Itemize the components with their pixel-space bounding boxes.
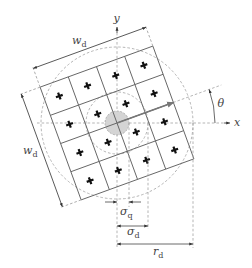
cross-marker [114, 166, 123, 175]
grid-line [71, 131, 184, 172]
cross-marker [55, 91, 64, 100]
top-width-label-sub: d [81, 40, 86, 49]
cross-marker [121, 99, 130, 108]
cross-marker [111, 71, 120, 80]
r-d-label: rd [153, 245, 163, 260]
top-width-extension-right [145, 24, 153, 46]
x-axis-label: x [234, 116, 241, 129]
top-width-label: wd [72, 34, 87, 49]
sigma-q-label-sub: q [128, 211, 133, 220]
x-axis-label-text: x [234, 116, 241, 129]
left-width-extension-top [18, 87, 40, 95]
left-width-label-sub: d [32, 150, 37, 159]
cross-marker [75, 148, 84, 157]
sigma-q-label: σq [120, 205, 133, 220]
cross-marker [85, 176, 94, 185]
r-d-label-sub: d [158, 251, 163, 260]
rotated-grid-diagram: y x θ wd wd σq σd rd [0, 0, 252, 268]
left-width-label: wd [23, 144, 38, 159]
cross-marker [160, 117, 169, 126]
top-width-extension-left [32, 66, 40, 88]
y-axis-label: y [113, 12, 121, 25]
y-axis-label-text: y [113, 12, 121, 25]
cross-marker [83, 81, 92, 90]
cross-marker [65, 120, 74, 129]
sigma-d-label: σd [127, 225, 140, 240]
cross-marker [170, 145, 179, 154]
theta-label-text: θ [218, 97, 225, 110]
cross-marker [103, 138, 112, 147]
sigma-d-label-sub: d [135, 231, 140, 240]
cross-marker [132, 127, 141, 136]
grid-line [50, 74, 163, 115]
left-width-extension-bottom [60, 200, 82, 208]
cross-marker [150, 89, 159, 98]
cross-marker [93, 109, 102, 118]
cross-marker [139, 61, 148, 70]
cross-marker [142, 156, 151, 165]
theta-arc [209, 90, 215, 124]
theta-label: θ [218, 97, 225, 110]
